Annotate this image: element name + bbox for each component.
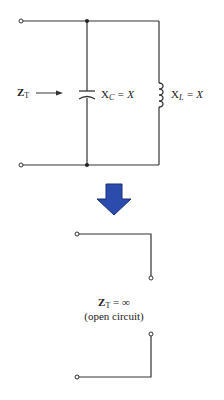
junction-top <box>85 19 89 23</box>
junction-bottom <box>85 163 89 167</box>
terminal-open-bottom-right <box>149 332 153 336</box>
capacitor-label: XC = X <box>101 89 134 102</box>
xc-symbol: X <box>101 88 109 100</box>
xl-symbol: X <box>171 88 179 100</box>
xl-subscript: L <box>179 93 183 102</box>
terminal-bottom-left <box>19 163 23 167</box>
xc-subscript: C <box>109 93 114 102</box>
circuit-diagram <box>0 0 224 400</box>
terminal-open-top-right <box>149 276 153 280</box>
terminal-top-left <box>19 19 23 23</box>
z-subscript: T <box>24 91 29 100</box>
terminal-open-top-left <box>75 232 79 236</box>
open-circuit-caption: (open circuit) <box>64 311 164 322</box>
input-arrow-icon <box>36 91 63 96</box>
capacitor-icon <box>79 91 95 99</box>
zt-subscript: T <box>105 301 110 310</box>
input-impedance-label: ZT <box>17 87 29 100</box>
xl-equation: = X <box>186 88 203 100</box>
xc-equation: = X <box>117 88 134 100</box>
down-arrow-icon <box>97 184 131 215</box>
inductor-label: XL = X <box>171 89 203 102</box>
inductor-icon <box>159 83 163 107</box>
terminal-open-bottom-left <box>75 375 79 379</box>
result-label: ZT = ∞ <box>74 297 154 310</box>
zt-equation: = ∞ <box>113 296 130 308</box>
